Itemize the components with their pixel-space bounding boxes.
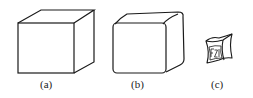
- label-c: (c): [211, 79, 223, 90]
- cube-c-shrunken: [206, 34, 232, 63]
- label-a: (a): [40, 79, 52, 90]
- cube-b-rounded: [113, 12, 184, 73]
- label-b: (b): [131, 79, 144, 90]
- cube-c-face-marking: [211, 49, 219, 57]
- cube-a-sharp: [18, 10, 94, 73]
